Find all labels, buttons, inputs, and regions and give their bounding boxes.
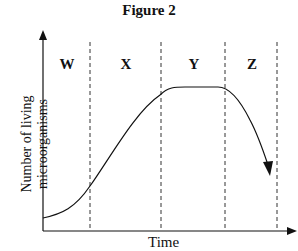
phase-label-y: Y bbox=[174, 56, 214, 73]
y-axis-label-line2: microorganisms bbox=[35, 69, 51, 219]
x-axis-label: Time bbox=[148, 234, 179, 251]
y-axis-label: Number of living microorganisms bbox=[19, 69, 51, 219]
phase-label-w: W bbox=[47, 56, 87, 73]
x-axis-arrow-icon bbox=[287, 227, 297, 235]
phase-label-z: Z bbox=[232, 56, 272, 73]
y-axis-label-line1: Number of living bbox=[19, 69, 35, 219]
y-axis-arrow-icon bbox=[39, 30, 47, 40]
decline-arrow-icon bbox=[263, 161, 273, 176]
phase-label-x: X bbox=[106, 56, 146, 73]
growth-curve bbox=[43, 87, 268, 218]
